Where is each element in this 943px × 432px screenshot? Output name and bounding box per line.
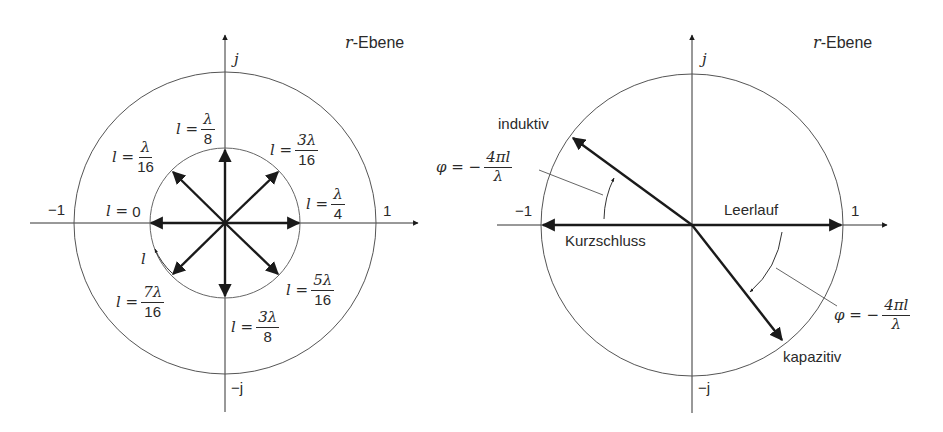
- inductive-leader-line: [539, 170, 603, 195]
- rotation-direction-arrow: [155, 249, 172, 273]
- left-axis-j: j: [234, 52, 239, 67]
- right-axis-minus-j: −j: [698, 380, 710, 395]
- inductive-angle-arc: [604, 178, 614, 219]
- capacitive-leader-line: [776, 268, 837, 306]
- reflection-diagrams: [0, 0, 943, 432]
- inductive-label: induktiv: [498, 116, 549, 131]
- arrow-l-3lambda-16: [225, 172, 278, 223]
- right-axis-minus-one: −1: [515, 203, 532, 218]
- left-axis-minus-one: −1: [48, 202, 65, 217]
- label-l-3lambda-16: l = 3λ16: [270, 133, 318, 168]
- right-plane-label: r-Ebene: [813, 35, 872, 51]
- rotation-label: l: [141, 252, 146, 267]
- open-circuit-label: Leerlauf: [724, 202, 778, 217]
- short-circuit-label: Kurzschluss: [565, 233, 646, 248]
- left-r-plane: [30, 35, 418, 412]
- arrow-l-5lambda-16: [225, 223, 278, 274]
- right-axis-j: j: [702, 52, 707, 67]
- inductive-phase-formula: φ = − 4πlλ: [436, 150, 512, 185]
- arrow-inductive: [573, 138, 692, 225]
- label-l-7lambda-16: l = 7λ16: [116, 285, 164, 320]
- label-l-lambda-8: l = λ8: [176, 112, 215, 147]
- capacitive-angle-arc: [750, 232, 782, 292]
- left-axis-minus-j: −j: [231, 380, 243, 395]
- capacitive-phase-formula: φ = − 4πlλ: [834, 298, 910, 333]
- left-axis-one: 1: [383, 203, 391, 218]
- label-l-3lambda-8: l = 3λ8: [231, 310, 279, 345]
- arrow-l-lambda-16: [173, 172, 225, 223]
- left-plane-label: r-Ebene: [345, 35, 404, 51]
- arrow-capacitive: [692, 225, 782, 340]
- label-l-0: l = 0: [106, 204, 141, 219]
- label-l-5lambda-16: l = 5λ16: [286, 273, 334, 308]
- arrow-l-7lambda-16: [173, 223, 225, 274]
- label-l-lambda-16: l = λ16: [112, 140, 154, 175]
- capacitive-label: kapazitiv: [783, 349, 841, 364]
- label-l-lambda-4: l = λ4: [306, 187, 345, 222]
- right-axis-one: 1: [851, 203, 859, 218]
